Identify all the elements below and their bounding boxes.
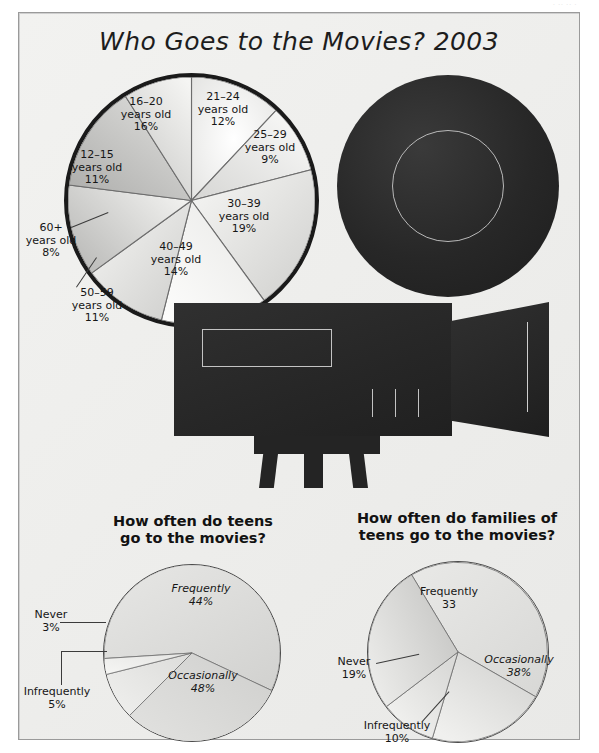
pie-label-16-20: 16–20 years old 16% (113, 96, 179, 134)
projector-leg-icon (259, 454, 278, 488)
projector-leg-icon (304, 454, 323, 488)
leader-line-teens-infrequently-vertical (61, 651, 62, 685)
pie-label-teens-infrequently: Infrequently 5% (7, 686, 107, 711)
pie-label-families-infrequently: Infrequently 10% (347, 720, 447, 745)
page-header-strip: · ·· ·· · (0, 0, 599, 11)
projector-window-icon (202, 329, 332, 367)
pie-label-60-plus: 60+ years old 8% (15, 222, 87, 260)
film-reel-inner-ring-icon (392, 130, 504, 242)
pie-label-30-39: 30–39 years old 19% (211, 198, 277, 236)
page-title: Who Goes to the Movies? 2003 (19, 27, 579, 56)
projector-lens-line-icon (527, 322, 528, 412)
projector-body-icon (174, 303, 452, 436)
pie-label-teens-frequently: Frequently 44% (155, 583, 247, 608)
projector-leg-icon (349, 454, 368, 488)
leader-line-teens-never (60, 622, 106, 623)
pie-label-25-29: 25–29 years old 9% (237, 129, 303, 167)
pie-label-40-49: 40–49 years old 14% (143, 241, 209, 279)
pie-label-families-occasionally: Occasionally 38% (471, 654, 567, 679)
pie-label-families-frequently: Frequently 33 (403, 586, 495, 611)
projector-base-icon (254, 436, 380, 454)
projector-vent-icon (395, 389, 396, 417)
pie-label-teens-occasionally: Occasionally 48% (153, 670, 253, 695)
pie-label-21-24: 21–24 years old 12% (190, 91, 256, 129)
worksheet-frame: Who Goes to the Movies? 2003 (18, 12, 580, 740)
projector-vent-icon (372, 389, 373, 417)
pie-label-families-never: Never 19% (323, 656, 385, 681)
projector-lens-icon (451, 302, 549, 437)
film-reel-icon (337, 75, 559, 297)
projector-vent-icon (418, 389, 419, 417)
chart-title-families: How often do families of teens go to the… (337, 510, 577, 544)
pie-label-50-59: 50–59 years old 11% (57, 287, 137, 325)
pie-label-12-15: 12–15 years old 11% (61, 149, 133, 187)
leader-line-teens-infrequently (61, 651, 107, 652)
chart-title-teens: How often do teens go to the movies? (79, 513, 307, 547)
header-running-text: · ·· ·· · (553, 1, 577, 8)
